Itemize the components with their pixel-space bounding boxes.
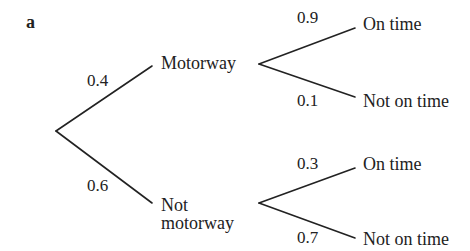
probability-motorway-on-time: 0.9 bbox=[297, 9, 318, 27]
outcome-motorway-on-time: On time bbox=[363, 15, 422, 34]
tree-diagram-lines bbox=[0, 0, 470, 251]
probability-motorway: 0.4 bbox=[87, 72, 108, 90]
branch-motorway-on-time bbox=[259, 28, 355, 64]
branch-not-motorway-on-time bbox=[259, 168, 355, 203]
node-motorway: Motorway bbox=[161, 54, 236, 73]
probability-not-motorway-on-time: 0.3 bbox=[297, 155, 318, 173]
outcome-not-motorway-not-on-time: Not on time bbox=[363, 230, 449, 249]
probability-not-motorway-not-on-time: 0.7 bbox=[297, 229, 318, 247]
node-not-motorway-line2: motorway bbox=[161, 214, 234, 233]
probability-motorway-not-on-time: 0.1 bbox=[297, 92, 318, 110]
outcome-motorway-not-on-time: Not on time bbox=[363, 92, 449, 111]
probability-not-motorway: 0.6 bbox=[87, 177, 108, 195]
outcome-not-motorway-on-time: On time bbox=[363, 155, 422, 174]
